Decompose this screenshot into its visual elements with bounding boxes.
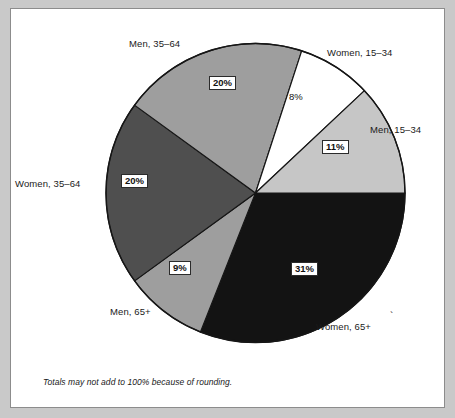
- chart-footnote: Totals may not add to 100% because of ro…: [43, 377, 232, 387]
- slice-label-women-65plus: Women, 65+: [316, 321, 371, 332]
- slice-label-men-35-64: Men, 35–64: [129, 38, 180, 49]
- slice-value-women-15-34: 8%: [289, 91, 303, 102]
- slice-value-men-35-64: 20%: [209, 76, 236, 90]
- slice-value-women-65plus: 31%: [291, 262, 318, 276]
- slice-label-men-15-34: Men, 15–34: [370, 124, 421, 135]
- slice-label-women-15-34: Women, 15–34: [327, 47, 392, 58]
- pie-chart: [11, 9, 455, 418]
- slice-value-women-35-64: 20%: [121, 174, 148, 188]
- stray-tick-mark: `: [390, 311, 393, 322]
- slice-label-women-35-64: Women, 35–64: [15, 178, 80, 189]
- chart-figure-frame: Men, 35–64 Women, 15–34 Men, 15–34 Women…: [10, 8, 445, 408]
- slice-value-men-15-34: 11%: [322, 140, 349, 154]
- slice-label-men-65plus: Men, 65+: [110, 306, 151, 317]
- pie-slices-group: [106, 43, 405, 342]
- slice-value-men-65plus: 9%: [169, 261, 191, 275]
